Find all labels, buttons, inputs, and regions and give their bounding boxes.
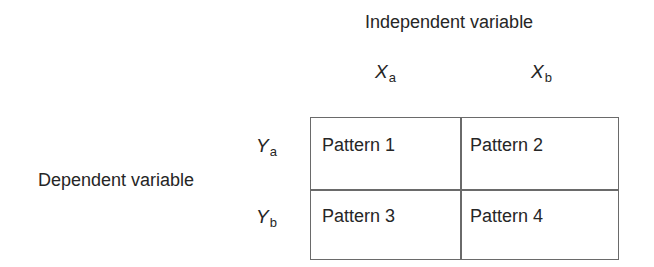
column-subscript: a — [389, 70, 396, 85]
row-subscript: b — [270, 215, 277, 230]
column-header-xa: Xa — [375, 62, 396, 82]
dependent-variable-label: Dependent variable — [38, 170, 194, 190]
independent-variable-label: Independent variable — [365, 12, 533, 32]
cell-pattern-2: Pattern 2 — [470, 135, 543, 155]
matrix-row-divider — [311, 189, 618, 191]
row-symbol: Y — [256, 135, 269, 156]
row-header-ya: Ya — [256, 136, 277, 156]
column-symbol: X — [375, 61, 388, 82]
column-subscript: b — [545, 70, 552, 85]
cell-pattern-1: Pattern 1 — [322, 135, 395, 155]
row-symbol: Y — [256, 206, 269, 227]
pattern-matrix: Pattern 1 Pattern 2 Pattern 3 Pattern 4 — [310, 117, 619, 260]
row-header-yb: Yb — [256, 207, 277, 227]
cell-pattern-4: Pattern 4 — [470, 206, 543, 226]
cell-pattern-3: Pattern 3 — [322, 206, 395, 226]
row-subscript: a — [270, 144, 277, 159]
column-symbol: X — [531, 61, 544, 82]
column-header-xb: Xb — [531, 62, 552, 82]
